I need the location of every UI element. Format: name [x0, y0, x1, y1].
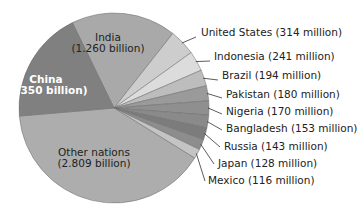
label-mexico: Mexico (116 million): [208, 174, 315, 186]
leader-line-japan: [201, 144, 214, 164]
leader-line-bangladesh: [207, 121, 222, 130]
population-pie-chart: India(1.260 billion)United States (314 m…: [0, 0, 362, 214]
leader-line-indonesia: [196, 61, 210, 62]
label-other-nations: Other nations(2.809 billion): [57, 146, 130, 169]
label-united-states: United States (314 million): [201, 26, 342, 38]
leader-line-mexico: [196, 153, 205, 181]
leader-line-russia: [204, 134, 220, 147]
label-nigeria: Nigeria (170 million): [226, 105, 333, 117]
label-indonesia: Indonesia (241 million): [214, 50, 335, 62]
leader-line-nigeria: [208, 108, 222, 114]
label-brazil: Brazil (194 million): [222, 69, 321, 81]
label-russia: Russia (143 million): [224, 140, 328, 152]
leader-line-brazil: [203, 78, 218, 80]
leader-line-united-states: [182, 37, 196, 43]
leader-line-pakistan: [207, 93, 222, 98]
label-bangladesh: Bangladesh (153 million): [226, 122, 357, 134]
label-japan: Japan (128 million): [217, 157, 317, 169]
label-pakistan: Pakistan (180 million): [226, 88, 340, 100]
